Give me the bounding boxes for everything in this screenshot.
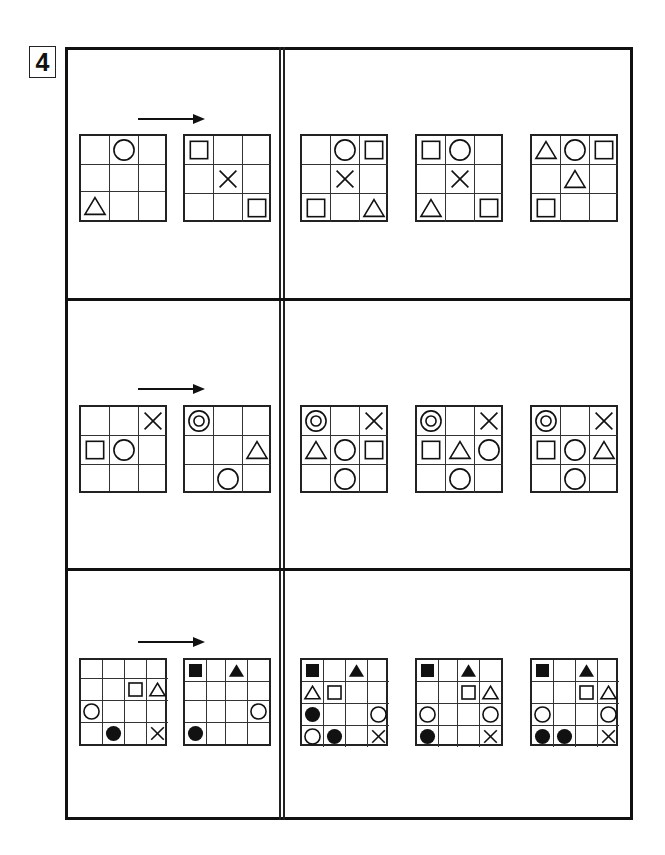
empty-cell bbox=[346, 726, 368, 747]
triangle-icon bbox=[561, 165, 590, 194]
filled-triangle-icon bbox=[576, 660, 598, 682]
empty-cell bbox=[368, 682, 389, 704]
right-arrow-icon bbox=[138, 111, 205, 129]
empty-cell bbox=[475, 165, 503, 194]
answer-option-2 bbox=[415, 658, 503, 746]
double-circle-icon bbox=[302, 407, 331, 436]
empty-cell bbox=[576, 726, 598, 747]
circle-icon bbox=[532, 704, 554, 726]
filled-square-icon bbox=[302, 660, 324, 682]
circle-icon bbox=[331, 436, 360, 465]
triangle-icon bbox=[417, 194, 446, 222]
empty-cell bbox=[81, 165, 110, 192]
empty-cell bbox=[139, 165, 165, 192]
triangle-icon bbox=[590, 436, 618, 465]
answer-option-2 bbox=[415, 405, 503, 493]
empty-cell bbox=[243, 136, 271, 165]
empty-cell bbox=[185, 165, 214, 194]
filled-triangle-icon bbox=[458, 660, 480, 682]
circle-icon bbox=[331, 136, 360, 165]
filled-circle-icon bbox=[324, 726, 346, 747]
empty-cell bbox=[446, 407, 475, 436]
empty-cell bbox=[110, 465, 139, 491]
answer-option-1 bbox=[300, 658, 388, 746]
filled-circle-icon bbox=[554, 726, 576, 747]
triangle-icon bbox=[302, 436, 331, 465]
empty-cell bbox=[302, 465, 331, 493]
circle-icon bbox=[598, 704, 619, 726]
answer-option-3 bbox=[530, 658, 618, 746]
row-divider bbox=[65, 298, 633, 301]
triangle-icon bbox=[532, 136, 561, 165]
empty-cell bbox=[248, 682, 269, 701]
empty-cell bbox=[302, 136, 331, 165]
empty-cell bbox=[324, 704, 346, 726]
answer-option-1 bbox=[300, 405, 388, 493]
empty-cell bbox=[110, 165, 139, 192]
empty-cell bbox=[576, 704, 598, 726]
empty-cell bbox=[561, 407, 590, 436]
circle-icon bbox=[480, 704, 501, 726]
cross-icon bbox=[139, 407, 167, 436]
empty-cell bbox=[458, 726, 480, 747]
square-icon bbox=[360, 136, 388, 165]
filled-triangle-icon bbox=[226, 660, 248, 682]
square-icon bbox=[417, 136, 446, 165]
empty-cell bbox=[554, 682, 576, 704]
filled-circle-icon bbox=[532, 726, 554, 747]
filled-circle-icon bbox=[417, 726, 439, 747]
square-icon bbox=[475, 194, 503, 222]
empty-cell bbox=[458, 704, 480, 726]
empty-cell bbox=[139, 465, 167, 491]
empty-cell bbox=[439, 660, 458, 682]
empty-cell bbox=[147, 701, 168, 723]
empty-cell bbox=[214, 436, 243, 465]
empty-cell bbox=[590, 465, 618, 493]
empty-cell bbox=[439, 704, 458, 726]
square-icon bbox=[81, 436, 110, 465]
empty-cell bbox=[368, 660, 389, 682]
empty-cell bbox=[475, 136, 503, 165]
empty-cell bbox=[360, 465, 388, 493]
circle-icon bbox=[81, 701, 103, 723]
empty-cell bbox=[185, 436, 214, 465]
answer-option-3 bbox=[530, 134, 618, 222]
empty-cell bbox=[81, 407, 110, 436]
empty-cell bbox=[185, 465, 214, 493]
square-icon bbox=[243, 194, 271, 222]
circle-icon bbox=[561, 136, 590, 165]
divider-line bbox=[283, 47, 285, 820]
empty-cell bbox=[598, 660, 619, 682]
empty-cell bbox=[139, 436, 167, 465]
empty-cell bbox=[248, 660, 269, 682]
filled-triangle-icon bbox=[346, 660, 368, 682]
square-icon bbox=[302, 194, 331, 222]
empty-cell bbox=[554, 660, 576, 682]
empty-cell bbox=[147, 660, 168, 679]
empty-cell bbox=[139, 192, 165, 220]
cross-icon bbox=[360, 407, 388, 436]
right-arrow-icon bbox=[138, 634, 205, 652]
triangle-icon bbox=[360, 194, 388, 222]
circle-icon bbox=[446, 465, 475, 493]
circle-icon bbox=[561, 465, 590, 493]
divider-line bbox=[279, 47, 281, 820]
square-icon bbox=[417, 436, 446, 465]
cross-icon bbox=[475, 407, 503, 436]
source-grid bbox=[79, 405, 167, 493]
empty-cell bbox=[439, 682, 458, 704]
cross-icon bbox=[214, 165, 243, 194]
circle-icon bbox=[110, 136, 139, 165]
cross-icon bbox=[590, 407, 618, 436]
empty-cell bbox=[185, 682, 207, 701]
circle-icon bbox=[446, 136, 475, 165]
empty-cell bbox=[532, 165, 561, 194]
circle-icon bbox=[248, 701, 269, 723]
empty-cell bbox=[214, 194, 243, 222]
empty-cell bbox=[185, 701, 207, 723]
triangle-icon bbox=[480, 682, 501, 704]
triangle-icon bbox=[147, 679, 168, 701]
square-icon bbox=[532, 194, 561, 222]
empty-cell bbox=[243, 407, 271, 436]
empty-cell bbox=[207, 660, 226, 682]
